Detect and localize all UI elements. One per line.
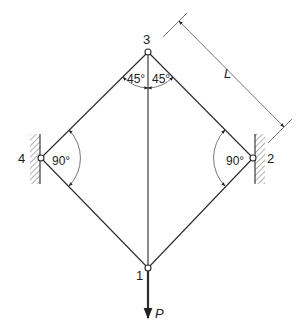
member-4-1 — [41, 158, 148, 268]
load-label: P — [155, 306, 164, 321]
angle-label-3-right: 45° — [152, 72, 170, 86]
angle-label-2: 90° — [226, 154, 244, 168]
node-3 — [145, 49, 151, 55]
member-3-2 — [148, 52, 253, 158]
node-label-1: 1 — [136, 268, 143, 283]
node-1 — [145, 265, 151, 271]
truss-members — [41, 52, 253, 268]
wall-support-right — [255, 134, 265, 184]
angle-label-3-left: 45° — [127, 72, 145, 86]
truss-diagram: 45° 45° 90° 90° L P 3 4 2 1 — [0, 0, 308, 333]
node-label-3: 3 — [143, 32, 150, 47]
node-2 — [250, 155, 256, 161]
angle-arc-node-2 — [214, 130, 225, 186]
member-3-4 — [41, 52, 148, 158]
node-label-4: 4 — [18, 151, 25, 166]
node-label-2: 2 — [267, 151, 274, 166]
node-4 — [38, 155, 44, 161]
angle-arc-node-4 — [69, 130, 80, 186]
member-2-1 — [148, 158, 253, 268]
angle-label-4: 90° — [52, 154, 70, 168]
dimension-label: L — [224, 66, 231, 81]
